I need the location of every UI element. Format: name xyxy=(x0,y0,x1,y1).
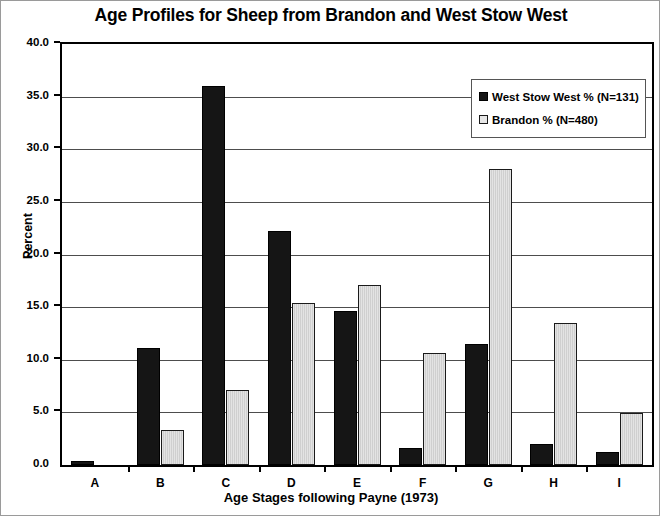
x-axis-labels: ABCDEFGHI xyxy=(62,467,652,489)
x-axis-tick-label: E xyxy=(353,476,361,490)
bar-brandon-B xyxy=(161,430,184,465)
legend-label: Brandon % (N=480) xyxy=(492,114,598,126)
y-axis-tick-label: 30.0 xyxy=(27,141,49,153)
x-axis-tick-mark xyxy=(128,467,130,472)
y-axis-tick-label: 5.0 xyxy=(33,404,49,416)
x-axis-tick-mark xyxy=(586,467,588,472)
bar-brandon-G xyxy=(489,169,512,465)
x-axis-tick-mark xyxy=(259,467,261,472)
gridline xyxy=(62,255,652,256)
bar-west-A xyxy=(71,461,94,465)
gridline xyxy=(62,202,652,203)
x-axis-tick-label: G xyxy=(483,476,492,490)
bar-west-F xyxy=(399,448,422,465)
bar-west-G xyxy=(465,344,488,465)
bar-west-D xyxy=(268,231,291,465)
legend-swatch-icon xyxy=(479,115,488,124)
x-axis-tick-mark xyxy=(390,467,392,472)
bar-brandon-D xyxy=(292,303,315,465)
chart-title: Age Profiles for Sheep from Brandon and … xyxy=(1,5,660,26)
bar-brandon-H xyxy=(554,323,577,465)
x-axis-title: Age Stages following Payne (1973) xyxy=(1,490,660,505)
legend-item: Brandon % (N=480) xyxy=(479,110,639,129)
bar-brandon-C xyxy=(226,390,249,465)
x-axis-tick-mark xyxy=(324,467,326,472)
y-axis-tick-label: 0.0 xyxy=(33,457,49,469)
bar-west-C xyxy=(202,86,225,465)
y-axis-tick-label: 15.0 xyxy=(27,299,49,311)
bar-brandon-I xyxy=(620,413,643,465)
x-axis-tick-mark xyxy=(193,467,195,472)
bar-west-I xyxy=(596,452,619,465)
x-axis-tick-label: A xyxy=(90,476,99,490)
bar-west-B xyxy=(137,348,160,465)
x-axis-tick-label: H xyxy=(549,476,558,490)
bar-west-H xyxy=(530,444,553,465)
gridline xyxy=(62,149,652,150)
legend-label: West Stow West % (N=131) xyxy=(492,91,639,103)
x-axis-tick-label: I xyxy=(618,476,621,490)
bar-brandon-F xyxy=(423,353,446,465)
x-axis-tick-label: B xyxy=(156,476,165,490)
chart-container: Age Profiles for Sheep from Brandon and … xyxy=(0,0,660,516)
legend-item: West Stow West % (N=131) xyxy=(479,87,639,106)
x-axis-tick-label: C xyxy=(222,476,231,490)
bar-west-E xyxy=(334,311,357,465)
chart-legend: West Stow West % (N=131)Brandon % (N=480… xyxy=(471,79,646,138)
x-axis-tick-mark xyxy=(521,467,523,472)
y-axis-title: Percent xyxy=(21,181,35,291)
x-axis-tick-mark xyxy=(455,467,457,472)
y-axis-tick-label: 10.0 xyxy=(27,352,49,364)
x-axis-tick-label: D xyxy=(287,476,296,490)
bar-brandon-E xyxy=(358,285,381,465)
legend-swatch-icon xyxy=(479,92,488,101)
x-axis-tick-label: F xyxy=(419,476,426,490)
y-axis-tick-label: 35.0 xyxy=(27,89,49,101)
y-axis-tick-label: 40.0 xyxy=(27,36,49,48)
